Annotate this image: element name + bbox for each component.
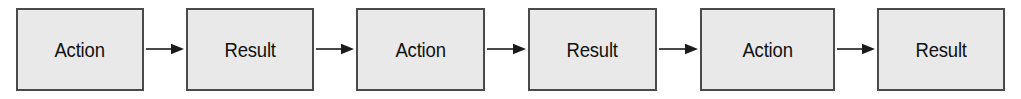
flow-node-action-3: Action — [700, 8, 835, 91]
flow-node-label: Result — [224, 39, 275, 60]
flow-node-label: Result — [567, 39, 618, 60]
flow-node-result-2: Result — [528, 8, 657, 91]
flow-arrow-icon-5 — [837, 41, 875, 57]
flow-arrow-icon-4 — [659, 41, 698, 57]
flow-node-label: Result — [915, 39, 966, 60]
flow-arrow-icon-3 — [487, 41, 526, 57]
flow-node-action-2: Action — [356, 8, 485, 91]
flow-arrow-icon-2 — [316, 41, 354, 57]
flow-node-result-1: Result — [186, 8, 314, 91]
flow-node-label: Action — [742, 39, 792, 60]
flow-node-result-3: Result — [877, 8, 1005, 91]
flow-node-action-1: Action — [16, 8, 144, 91]
flow-node-label: Action — [55, 39, 105, 60]
flow-arrow-icon-1 — [146, 41, 184, 57]
flowchart-diagram: Action Result Action Result Action Resul… — [0, 0, 1021, 99]
flow-node-label: Action — [395, 39, 445, 60]
